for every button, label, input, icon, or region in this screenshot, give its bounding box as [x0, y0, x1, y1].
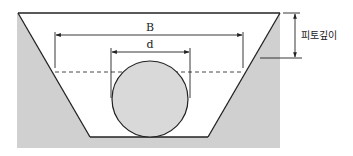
pipe-circle: [112, 61, 188, 137]
label-d: d: [146, 38, 153, 51]
trench-diagram: B d 피토깊이: [0, 0, 353, 156]
label-cover-depth: 피토깊이: [301, 30, 337, 41]
label-B: B: [146, 21, 154, 34]
